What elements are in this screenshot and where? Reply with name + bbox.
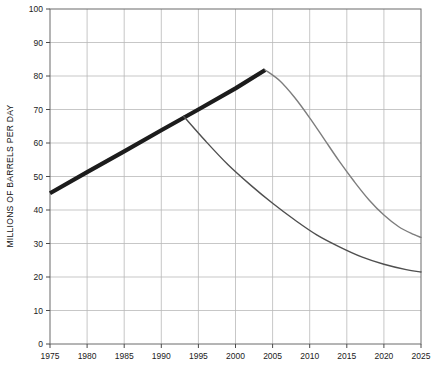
- x-tick-label: 2000: [226, 351, 245, 361]
- x-tick-label: 1975: [41, 351, 60, 361]
- y-tick-label: 50: [34, 172, 44, 182]
- x-tick-label: 2015: [337, 351, 356, 361]
- x-tick-label: 2005: [263, 351, 282, 361]
- y-tick-label: 10: [34, 306, 44, 316]
- y-tick-label: 0: [38, 339, 43, 349]
- y-tick-label: 70: [34, 105, 44, 115]
- y-tick-label: 60: [34, 138, 44, 148]
- y-tick-label: 30: [34, 239, 44, 249]
- chart-container: 0102030405060708090100 19751980198519901…: [0, 0, 432, 391]
- y-tick-label: 80: [34, 71, 44, 81]
- chart-background: [0, 0, 432, 391]
- oil-production-line-chart: 0102030405060708090100 19751980198519901…: [0, 0, 432, 391]
- x-tick-label: 1995: [189, 351, 208, 361]
- y-tick-label: 100: [29, 4, 43, 14]
- y-axis-title: MILLIONS OF BARRELS PER DAY: [5, 104, 15, 247]
- y-tick-label: 20: [34, 272, 44, 282]
- x-tick-label: 1985: [115, 351, 134, 361]
- x-tick-label: 1980: [78, 351, 97, 361]
- y-tick-label: 40: [34, 205, 44, 215]
- x-tick-label: 1990: [152, 351, 171, 361]
- x-tick-label: 2025: [412, 351, 431, 361]
- x-tick-label: 2010: [300, 351, 319, 361]
- x-tick-label: 2020: [374, 351, 393, 361]
- y-tick-label: 90: [34, 38, 44, 48]
